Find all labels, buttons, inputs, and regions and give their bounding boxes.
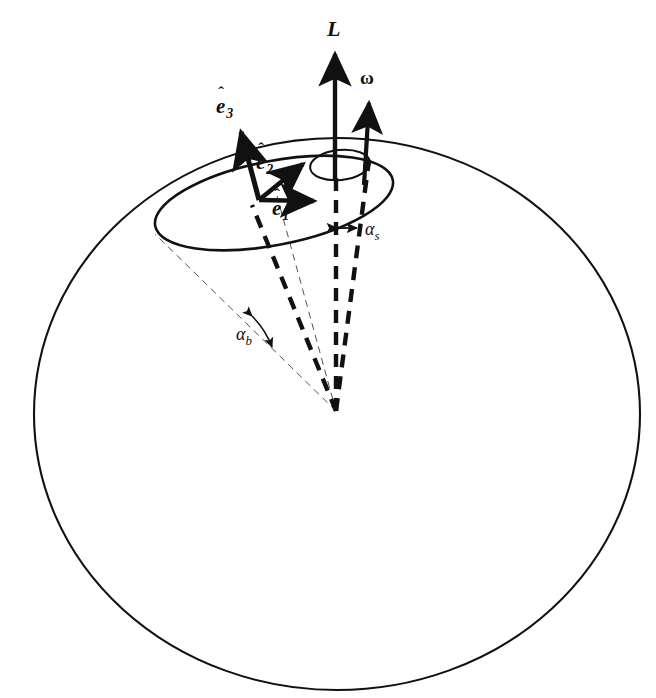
e2-hat-accent: ˆ	[258, 141, 264, 156]
angular-velocity-vector-arrow	[364, 103, 369, 185]
space-cone-base-ellipse	[309, 147, 372, 183]
alpha-s-subscript: s	[374, 228, 379, 243]
e2-label-base: ˆe	[256, 150, 265, 174]
e2-subscript: 2	[266, 162, 273, 177]
e1-label: ˆe1	[272, 198, 288, 219]
body-cone-generator-left	[252, 205, 336, 411]
body-space-cone-diagram	[0, 0, 656, 698]
body-cone-thin-generator-left	[155, 234, 336, 411]
alpha-b-subscript: b	[245, 333, 252, 348]
e3-hat-accent: ˆ	[218, 85, 224, 100]
e3-label: ˆe3	[216, 96, 232, 117]
e1-hat-accent: ˆ	[274, 187, 280, 202]
e2-label: ˆe2	[256, 152, 272, 173]
e3-subscript: 3	[226, 106, 233, 121]
e3-label-base: ˆe	[216, 94, 225, 118]
e1-label-base: ˆe	[272, 196, 281, 220]
body-cone-axis-thin	[277, 196, 336, 411]
figure-canvas: L ω ˆe3 ˆe2 ˆe1 αb αs	[0, 0, 656, 698]
sphere-outline	[34, 138, 640, 690]
angular-velocity-label: ω	[360, 68, 374, 87]
space-cone-generator-right	[336, 160, 369, 411]
alpha-s-label: αs	[365, 220, 380, 238]
angular-momentum-label: L	[327, 18, 340, 40]
e1-subscript: 1	[282, 208, 289, 223]
alpha-b-label: αb	[236, 325, 252, 343]
